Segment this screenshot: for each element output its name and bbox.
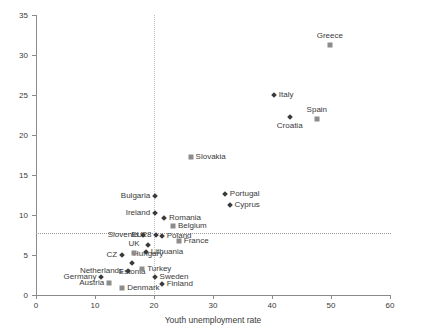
data-point-label: Portugal [230,189,260,198]
y-tick-label: 20 [8,131,28,140]
data-point-label: Cyprus [235,200,260,209]
data-point-label: Italy [279,90,294,99]
data-point-label: UK [128,239,139,248]
data-point-label: France [184,236,209,245]
x-tick-label: 40 [268,301,277,310]
x-tick [213,295,214,299]
x-tick [154,295,155,299]
square-marker-icon [170,224,175,229]
x-tick-label: 0 [34,301,38,310]
data-point-label: Slovakia [196,152,226,161]
square-marker-icon [140,267,145,272]
x-tick-label: 60 [386,301,395,310]
square-marker-icon [314,117,319,122]
x-tick-label: 20 [150,301,159,310]
scatter-chart: 0102030405060 05101520253035 Youth unemp… [0,0,434,333]
y-tick-label: 0 [8,291,28,300]
y-tick-label: 5 [8,251,28,260]
data-point-label: Austria [79,278,104,287]
y-tick-label: 10 [8,211,28,220]
x-tick-label: 10 [91,301,100,310]
data-point-label: Lithuania [151,247,183,256]
data-point-label: Spain [307,105,327,114]
square-marker-icon [327,43,332,48]
y-tick-label: 25 [8,91,28,100]
data-point-label: CZ [106,250,117,259]
x-tick [95,295,96,299]
y-tick-label: 30 [8,51,28,60]
square-marker-icon [188,155,193,160]
data-point-label: Finland [167,279,193,288]
x-tick-label: 30 [209,301,218,310]
square-marker-icon [107,281,112,286]
y-tick [32,295,36,296]
x-axis-title: Youth unemployment rate [165,315,262,325]
square-marker-icon [131,251,136,256]
data-point-label: Greece [317,31,343,40]
data-point-label: Slovenia [108,230,139,239]
x-tick [36,295,37,299]
square-marker-icon [176,238,181,243]
x-tick [331,295,332,299]
data-point-label: Bulgaria [121,191,150,200]
data-point-label: Belgium [178,221,207,230]
data-point-label: Croatia [277,121,303,130]
square-marker-icon [120,285,125,290]
y-tick-label: 15 [8,171,28,180]
x-tick [390,295,391,299]
y-tick-label: 35 [8,11,28,20]
x-tick-label: 50 [327,301,336,310]
data-point-label: Ireland [126,208,150,217]
data-point-label: Denmark [127,283,159,292]
x-tick [272,295,273,299]
